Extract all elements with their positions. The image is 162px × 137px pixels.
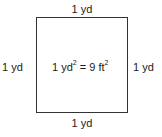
equation-rhs-value: 9 ft — [89, 61, 104, 73]
bottom-side-label: 1 yd — [0, 117, 162, 129]
equation-lhs-exponent: 2 — [73, 59, 77, 66]
right-side-label: 1 yd — [133, 61, 154, 73]
equation-equals: = — [77, 61, 90, 73]
equation-lhs-value: 1 yd — [52, 61, 73, 73]
top-side-label: 1 yd — [0, 3, 162, 15]
left-side-label: 1 yd — [2, 61, 23, 73]
equation-rhs-exponent: 2 — [105, 59, 109, 66]
area-equation: 1 yd2 = 9 ft2 — [52, 61, 108, 73]
